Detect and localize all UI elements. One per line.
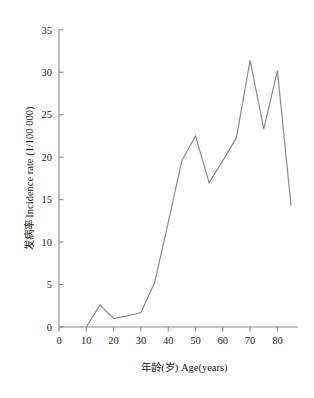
x-tick-label: 0 xyxy=(56,335,61,346)
x-axis-title: 年龄(岁) Age(years) xyxy=(141,361,228,374)
data-series xyxy=(86,60,291,327)
y-tick-label: 0 xyxy=(47,322,52,333)
x-tick-label: 70 xyxy=(245,335,256,346)
x-tick-label: 30 xyxy=(136,335,147,346)
y-tick-label: 10 xyxy=(42,237,53,248)
y-tick-label: 30 xyxy=(42,67,53,78)
x-tick-label: 80 xyxy=(272,335,283,346)
x-tick-label: 10 xyxy=(81,335,92,346)
x-tick-label: 20 xyxy=(108,335,119,346)
axis-ticks xyxy=(59,30,277,332)
y-tick-label: 5 xyxy=(47,279,52,290)
line-chart: 0510152025303501020304050607080 年龄(岁) Ag… xyxy=(0,0,314,398)
incidence-rate-line xyxy=(86,60,291,327)
x-tick-label: 50 xyxy=(190,335,201,346)
axis-tick-labels: 0510152025303501020304050607080 xyxy=(42,25,283,346)
x-tick-label: 40 xyxy=(163,335,174,346)
y-tick-label: 25 xyxy=(42,109,53,120)
x-tick-label: 60 xyxy=(218,335,229,346)
y-tick-label: 35 xyxy=(42,25,53,36)
chart-figure: 0510152025303501020304050607080 年龄(岁) Ag… xyxy=(0,0,314,398)
y-tick-label: 15 xyxy=(42,194,53,205)
y-tick-label: 20 xyxy=(42,152,53,163)
y-axis-title: 发病率 Incidence rate (1/100 000) xyxy=(23,106,36,250)
bottom-caption xyxy=(0,384,314,398)
